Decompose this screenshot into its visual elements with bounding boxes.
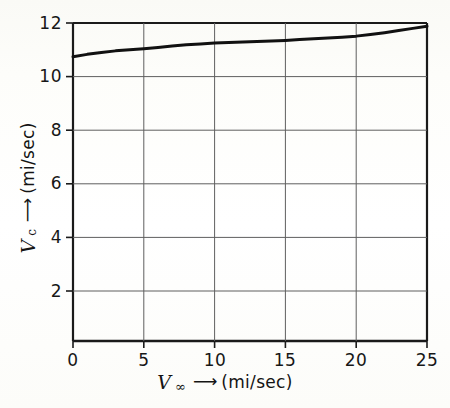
- x-axis-subscript: ∞: [175, 379, 186, 394]
- y-tick-label-2: 2: [18, 281, 62, 301]
- x-tick-label-15: 15: [265, 350, 305, 370]
- y-axis-units: (mi/sec): [18, 122, 38, 193]
- chart-figure: 12 10 8 6 4 2 0 5 10 15 20 25 V∞ ⟶ (mi/s…: [0, 0, 450, 408]
- vertical-gridlines: [144, 23, 356, 341]
- y-tick-label-10: 10: [18, 66, 62, 86]
- x-tick-label-25: 25: [407, 350, 447, 370]
- y-axis-symbol: V: [17, 239, 39, 254]
- x-tick-label-5: 5: [124, 350, 164, 370]
- x-axis-arrow-icon: ⟶: [193, 373, 216, 390]
- x-axis-title: V∞ ⟶ (mi/sec): [0, 371, 450, 393]
- plot-svg: [0, 0, 450, 408]
- y-axis-subscript: c: [25, 229, 39, 236]
- plot-frame: [73, 23, 427, 341]
- horizontal-gridlines: [73, 77, 427, 291]
- y-axis-arrow-icon: ⟶: [19, 199, 36, 222]
- y-axis-title: Vc ⟶ (mi/sec): [17, 98, 39, 278]
- x-axis-units: (mi/sec): [221, 372, 292, 392]
- x-tick-label-0: 0: [53, 350, 93, 370]
- figure-page: 12 10 8 6 4 2 0 5 10 15 20 25 V∞ ⟶ (mi/s…: [0, 0, 450, 408]
- data-curve: [73, 26, 427, 57]
- y-tick-label-12: 12: [18, 13, 62, 33]
- x-tick-label-20: 20: [336, 350, 376, 370]
- x-tick-label-10: 10: [195, 350, 235, 370]
- x-axis-symbol: V: [157, 371, 172, 393]
